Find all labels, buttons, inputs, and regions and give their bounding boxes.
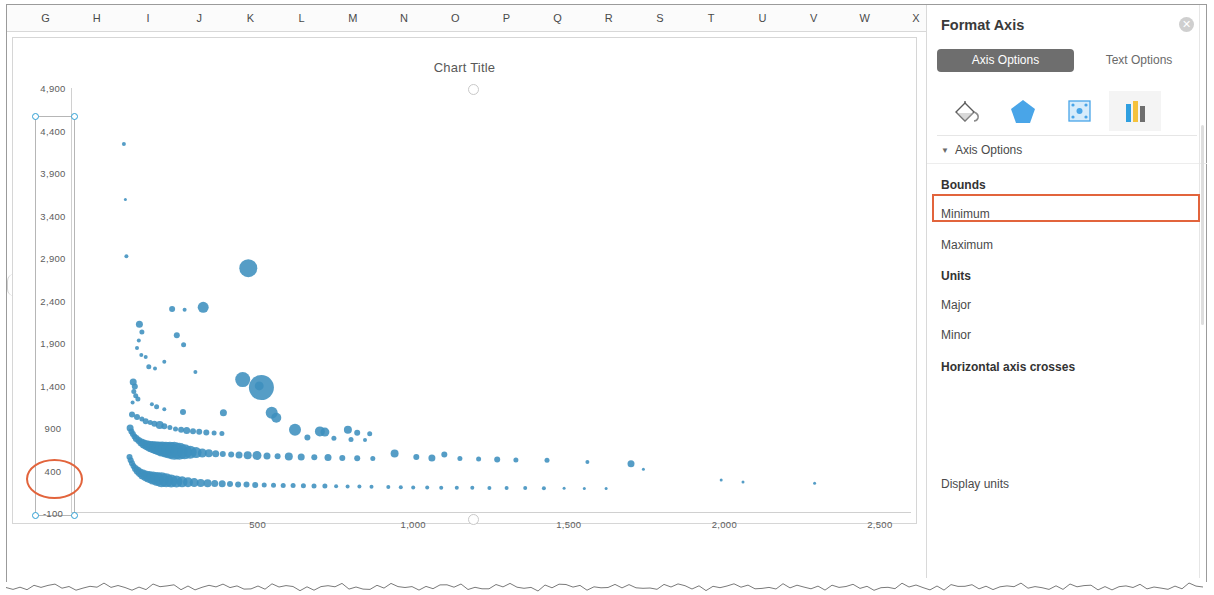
- column-header-N[interactable]: N: [378, 5, 429, 32]
- major-label: Major: [941, 298, 971, 312]
- tab-axis-options[interactable]: Axis Options: [937, 49, 1074, 72]
- display-units-label: Display units: [941, 477, 1009, 491]
- column-header-P[interactable]: P: [481, 5, 532, 32]
- minimum-label: Minimum: [941, 207, 990, 221]
- column-header-V[interactable]: V: [788, 5, 839, 32]
- chart-title[interactable]: Chart Title: [13, 60, 916, 75]
- size-properties-glyph: [1053, 91, 1105, 131]
- column-header-J[interactable]: J: [174, 5, 225, 32]
- plot-area[interactable]: [71, 88, 911, 513]
- y-axis-tick-label: 400: [33, 465, 73, 476]
- chart-bottom-handle[interactable]: [468, 514, 479, 525]
- axis-handle-tl[interactable]: [32, 113, 39, 120]
- y-axis-tick-label: 4,900: [33, 83, 73, 94]
- pane-title: Format Axis: [941, 17, 1024, 33]
- effects-icon[interactable]: [997, 91, 1049, 131]
- screenshot-root: GHIJKLMNOPQRSTUVWX Chart Title 4,90: [0, 0, 1214, 595]
- divider-1: [927, 163, 1207, 164]
- x-axis-tick-label: 2,500: [845, 519, 915, 530]
- y-axis-tick-label: -100: [33, 508, 73, 519]
- minor-label: Minor: [941, 328, 971, 342]
- column-header-S[interactable]: S: [634, 5, 685, 32]
- fill-line-icon[interactable]: [941, 91, 993, 131]
- y-axis-tick-label: 3,900: [33, 168, 73, 179]
- torn-paper-edge: [6, 578, 1207, 594]
- paint-bucket-glyph: [941, 91, 993, 131]
- y-axis-tick-label: 2,400: [33, 295, 73, 306]
- units-heading: Units: [941, 269, 971, 283]
- pane-right-rule: [1199, 5, 1200, 578]
- crosses-heading: Horizontal axis crosses: [941, 360, 1075, 374]
- close-icon[interactable]: ✕: [1179, 17, 1194, 32]
- column-header-G[interactable]: G: [20, 5, 71, 32]
- chart-object[interactable]: Chart Title 4,9004,4003,9003,4002,9002,4…: [12, 37, 917, 524]
- worksheet-area: Chart Title 4,9004,4003,9003,4002,9002,4…: [7, 32, 925, 578]
- pane-tabs: Axis Options Text Options: [937, 49, 1197, 73]
- y-axis-tick-label: 4,400: [33, 125, 73, 136]
- torn-edge-svg: [6, 578, 1207, 594]
- column-header-L[interactable]: L: [276, 5, 327, 32]
- x-axis-line: [71, 512, 911, 513]
- x-axis-tick-label: 500: [223, 519, 293, 530]
- pentagon-glyph: [997, 91, 1049, 131]
- format-axis-pane: Format Axis ✕ Axis Options Text Options: [926, 5, 1206, 578]
- y-axis-tick-label: 2,900: [33, 253, 73, 264]
- column-header-I[interactable]: I: [122, 5, 173, 32]
- x-axis-tick-label: 1,500: [534, 519, 604, 530]
- column-header-H[interactable]: H: [71, 5, 122, 32]
- axis-options-disclosure-label: Axis Options: [955, 143, 1022, 157]
- size-properties-icon[interactable]: [1053, 91, 1105, 131]
- maximum-label: Maximum: [941, 238, 993, 252]
- chevron-down-icon: ▼: [941, 146, 949, 155]
- column-header-O[interactable]: O: [430, 5, 481, 32]
- scatter-markers: [71, 88, 911, 513]
- y-axis-tick-label: 1,900: [33, 338, 73, 349]
- x-axis-tick-label: 2,000: [689, 519, 759, 530]
- plot-inner: [71, 88, 911, 513]
- column-header-T[interactable]: T: [686, 5, 737, 32]
- pane-scrollbar[interactable]: [1201, 125, 1204, 325]
- column-header-R[interactable]: R: [583, 5, 634, 32]
- axis-handle-tr[interactable]: [71, 113, 78, 120]
- bounds-heading: Bounds: [941, 178, 986, 192]
- y-axis-tick-label: 3,400: [33, 210, 73, 221]
- axis-options-disclosure[interactable]: ▼Axis Options: [941, 143, 1022, 157]
- column-header-M[interactable]: M: [327, 5, 378, 32]
- column-header-U[interactable]: U: [737, 5, 788, 32]
- bar-chart-glyph: [1109, 91, 1161, 131]
- y-axis-tick-label: 900: [33, 423, 73, 434]
- column-header-W[interactable]: W: [839, 5, 890, 32]
- tab-text-options[interactable]: Text Options: [1081, 49, 1197, 72]
- x-axis-tick-label: 1,000: [378, 519, 448, 530]
- column-header-Q[interactable]: Q: [532, 5, 583, 32]
- pane-icon-row: [937, 91, 1197, 136]
- axis-options-icon[interactable]: [1109, 91, 1161, 131]
- y-axis-tick-label: 1,400: [33, 380, 73, 391]
- column-header-K[interactable]: K: [225, 5, 276, 32]
